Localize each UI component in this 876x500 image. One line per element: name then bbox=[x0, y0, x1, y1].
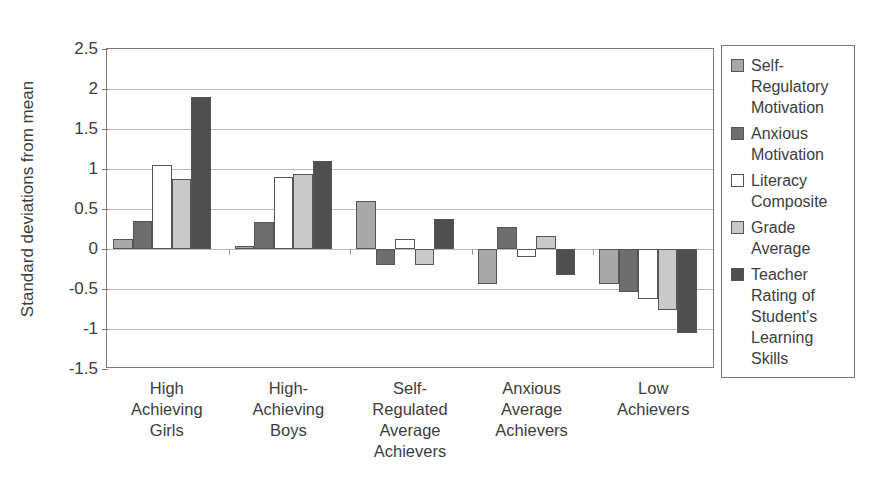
legend-swatch-icon bbox=[731, 59, 744, 72]
y-tick-label: 0 bbox=[89, 240, 98, 257]
legend-swatch-icon bbox=[731, 174, 744, 187]
legend-item[interactable]: TeacherRating ofStudent'sLearningSkills bbox=[731, 264, 854, 369]
x-axis-label-line: High- bbox=[228, 378, 350, 399]
legend-item[interactable]: Self-RegulatoryMotivation bbox=[731, 55, 854, 118]
legend-item[interactable]: GradeAverage bbox=[731, 217, 854, 259]
bar bbox=[274, 177, 294, 249]
bar bbox=[113, 239, 133, 249]
bar-group bbox=[350, 49, 472, 367]
y-tick-label: 1 bbox=[89, 160, 98, 177]
legend-label-line: Motivation bbox=[751, 144, 824, 165]
legend-label-line: Grade bbox=[751, 217, 810, 238]
x-axis-label-line: Average bbox=[349, 420, 471, 441]
x-axis-category-labels: HighAchievingGirlsHigh-AchievingBoysSelf… bbox=[106, 378, 714, 488]
legend-label-line: Composite bbox=[751, 191, 827, 212]
legend-swatch-icon bbox=[731, 268, 744, 281]
x-axis-label: Self-RegulatedAverageAchievers bbox=[349, 378, 471, 462]
legend-label-line: Anxious bbox=[751, 123, 824, 144]
y-tick-label: -1 bbox=[83, 320, 98, 337]
legend-label-line: Teacher bbox=[751, 264, 817, 285]
bar bbox=[517, 249, 537, 257]
legend-swatch-icon bbox=[731, 127, 744, 140]
legend-label-line: Regulatory bbox=[751, 76, 828, 97]
x-axis-label-line: Anxious bbox=[471, 378, 593, 399]
bar bbox=[478, 249, 498, 284]
x-axis-label-line: Achievers bbox=[592, 399, 714, 420]
legend-label: LiteracyComposite bbox=[751, 170, 827, 212]
x-axis-label: AnxiousAverageAchievers bbox=[471, 378, 593, 441]
bar bbox=[254, 222, 274, 249]
x-axis-label-line: Low bbox=[592, 378, 714, 399]
bar-chart: Standard deviations from mean 2.521.510.… bbox=[0, 0, 876, 500]
legend-label: Self-RegulatoryMotivation bbox=[751, 55, 828, 118]
y-tick-label: 1.5 bbox=[74, 120, 98, 137]
x-axis-label: HighAchievingGirls bbox=[106, 378, 228, 441]
legend-label-line: Self- bbox=[751, 55, 828, 76]
legend-label-line: Student's bbox=[751, 306, 817, 327]
y-tick-label: -0.5 bbox=[69, 280, 98, 297]
bar bbox=[677, 249, 697, 333]
bar bbox=[133, 221, 153, 249]
x-axis-label-line: High bbox=[106, 378, 228, 399]
y-tick-label: -1.5 bbox=[69, 360, 98, 377]
x-axis-label: LowAchievers bbox=[592, 378, 714, 420]
legend-item[interactable]: AnxiousMotivation bbox=[731, 123, 854, 165]
x-axis-label-line: Self- bbox=[349, 378, 471, 399]
x-axis-label-line: Achieving bbox=[228, 399, 350, 420]
bar bbox=[152, 165, 172, 249]
bar bbox=[395, 239, 415, 249]
bar-group bbox=[107, 49, 229, 367]
y-tick-label: 2 bbox=[89, 80, 98, 97]
y-axis-tick-mark bbox=[102, 369, 108, 370]
legend-label-line: Average bbox=[751, 238, 810, 259]
legend: Self-RegulatoryMotivationAnxiousMotivati… bbox=[721, 45, 855, 378]
bar bbox=[658, 249, 678, 310]
legend-label-line: Learning bbox=[751, 327, 817, 348]
bar bbox=[619, 249, 639, 292]
bar bbox=[313, 161, 333, 249]
y-axis-tick-labels: 2.521.510.50-0.5-1-1.5 bbox=[46, 40, 106, 380]
bar bbox=[293, 174, 313, 249]
plot-area bbox=[106, 48, 714, 368]
legend-label-line: Skills bbox=[751, 348, 817, 369]
bar bbox=[556, 249, 576, 275]
x-axis-label-line: Achievers bbox=[349, 441, 471, 462]
y-tick-label: 0.5 bbox=[74, 200, 98, 217]
y-tick-label: 2.5 bbox=[74, 40, 98, 57]
legend-label-line: Literacy bbox=[751, 170, 827, 191]
x-axis-label-line: Average bbox=[471, 399, 593, 420]
legend-label: AnxiousMotivation bbox=[751, 123, 824, 165]
legend-label: TeacherRating ofStudent'sLearningSkills bbox=[751, 264, 817, 369]
bar bbox=[356, 201, 376, 249]
x-axis-label-line: Boys bbox=[228, 420, 350, 441]
bar bbox=[415, 249, 435, 265]
bar-group bbox=[593, 49, 715, 367]
bar bbox=[191, 97, 211, 249]
bar bbox=[172, 179, 192, 249]
x-axis-label-line: Achievers bbox=[471, 420, 593, 441]
bar bbox=[536, 236, 556, 249]
bar bbox=[376, 249, 396, 265]
x-axis-tick-mark bbox=[350, 249, 351, 255]
x-axis-label-line: Girls bbox=[106, 420, 228, 441]
legend-label: GradeAverage bbox=[751, 217, 810, 259]
bar bbox=[599, 249, 619, 284]
legend-swatch-icon bbox=[731, 221, 744, 234]
x-axis-label: High-AchievingBoys bbox=[228, 378, 350, 441]
bar bbox=[235, 246, 255, 249]
legend-item[interactable]: LiteracyComposite bbox=[731, 170, 854, 212]
bar-group bbox=[472, 49, 594, 367]
bar-group bbox=[229, 49, 351, 367]
x-axis-label-line: Regulated bbox=[349, 399, 471, 420]
bars-layer bbox=[107, 49, 713, 367]
x-axis-label-line: Achieving bbox=[106, 399, 228, 420]
legend-label-line: Rating of bbox=[751, 285, 817, 306]
x-axis-tick-mark bbox=[593, 249, 594, 255]
bar bbox=[434, 219, 454, 249]
x-axis-tick-mark bbox=[229, 249, 230, 255]
y-axis-title: Standard deviations from mean bbox=[18, 34, 38, 364]
x-axis-tick-mark bbox=[472, 249, 473, 255]
bar bbox=[638, 249, 658, 299]
legend-label-line: Motivation bbox=[751, 97, 828, 118]
bar bbox=[497, 227, 517, 249]
